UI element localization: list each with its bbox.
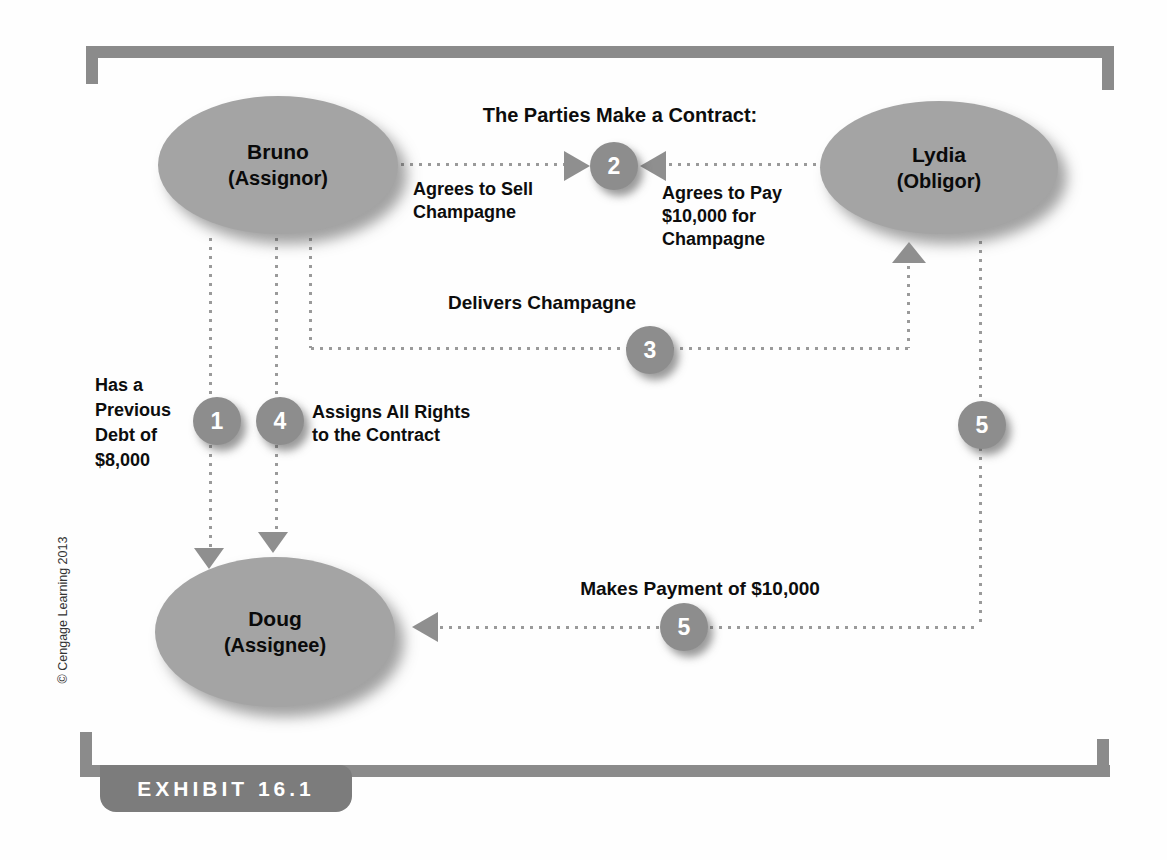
step-badge-5-horizontal: 5 (660, 603, 708, 651)
dotted-line-debt (208, 235, 213, 548)
node-lydia-obligor: Lydia (Obligor) (820, 101, 1058, 234)
label-agrees-to-sell: Agrees to Sell Champagne (413, 178, 533, 224)
step-badge-2: 2 (590, 142, 638, 190)
label-line: Champagne (662, 228, 782, 251)
node-role: (Assignee) (224, 632, 326, 658)
step-badge-4-number: 4 (274, 408, 287, 435)
label-agrees-to-pay: Agrees to Pay $10,000 for Champagne (662, 182, 782, 251)
label-line: Has a (95, 373, 171, 398)
label-line: Agrees to Pay (662, 182, 782, 205)
node-name: Bruno (247, 139, 309, 165)
label-line: $10,000 for (662, 205, 782, 228)
label-line: Champagne (413, 201, 533, 224)
arrow-up-icon (892, 242, 926, 263)
label-delivers-champagne: Delivers Champagne (412, 292, 672, 314)
label-line: Previous (95, 398, 171, 423)
label-line: Debt of (95, 423, 171, 448)
step-badge-3-number: 3 (644, 337, 657, 364)
contract-heading: The Parties Make a Contract: (420, 104, 820, 127)
arrow-right-icon (564, 151, 590, 181)
label-assigns-rights: Assigns All Rights to the Contract (312, 401, 470, 447)
arrow-left-icon (640, 151, 666, 181)
exhibit-label: EXHIBIT 16.1 (137, 777, 315, 801)
label-previous-debt: Has a Previous Debt of $8,000 (95, 373, 171, 473)
label-line: Assigns All Rights (312, 401, 470, 424)
node-doug-assignee: Doug (Assignee) (155, 557, 395, 707)
node-name: Lydia (912, 142, 966, 168)
frame-top-right-tick (1102, 46, 1114, 90)
node-bruno-assignor: Bruno (Assignor) (158, 96, 398, 234)
dotted-line-delivery-up (906, 263, 911, 348)
node-role: (Obligor) (897, 168, 981, 194)
step-badge-2-number: 2 (608, 153, 621, 180)
label-line: $8,000 (95, 448, 171, 473)
arrow-down-icon (194, 548, 224, 569)
label-makes-payment: Makes Payment of $10,000 (545, 578, 855, 600)
dotted-line-delivery-down (308, 235, 313, 348)
step-badge-5-vertical: 5 (958, 401, 1006, 449)
step-badge-5-number: 5 (976, 412, 989, 439)
node-role: (Assignor) (228, 165, 328, 191)
dotted-line-bruno-to-contract (398, 162, 564, 167)
node-name: Doug (248, 606, 302, 632)
step-badge-3: 3 (626, 326, 674, 374)
exhibit-tab: EXHIBIT 16.1 (100, 765, 352, 812)
step-badge-4: 4 (256, 397, 304, 445)
arrow-left-icon (412, 612, 438, 642)
exhibit-diagram: EXHIBIT 16.1 © Cengage Learning 2013 The… (0, 0, 1167, 860)
label-line: Agrees to Sell (413, 178, 533, 201)
dotted-line-lydia-to-contract (666, 162, 822, 167)
label-line: to the Contract (312, 424, 470, 447)
copyright-note: © Cengage Learning 2013 (56, 520, 72, 700)
dotted-line-delivery-across (308, 346, 912, 351)
arrow-down-icon (258, 532, 288, 553)
frame-top-bar (86, 46, 1114, 58)
dotted-line-assignment (274, 235, 279, 532)
step-badge-1-number: 1 (211, 408, 224, 435)
step-badge-1: 1 (193, 397, 241, 445)
frame-bottom-right-tick (1097, 739, 1109, 777)
frame-bottom-left-tick (80, 732, 92, 777)
dotted-line-payment-across (437, 625, 980, 630)
step-badge-5-number: 5 (678, 614, 691, 641)
frame-top-left-tick (86, 46, 98, 84)
